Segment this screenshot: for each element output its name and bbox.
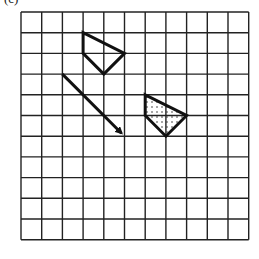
square-grid bbox=[21, 12, 249, 240]
translation-arrow bbox=[62, 74, 121, 133]
translation-grid-diagram bbox=[0, 0, 259, 259]
